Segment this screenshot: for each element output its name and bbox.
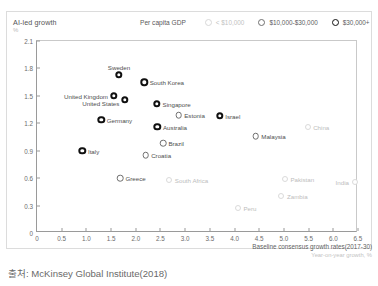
data-point-marker[interactable] bbox=[305, 124, 311, 130]
legend-items: < $10,000$10,000-$30,000$30,000+ bbox=[205, 19, 370, 26]
x-axis-tick-label: 2.5 bbox=[156, 235, 165, 242]
x-axis-tick-mark bbox=[358, 228, 359, 231]
x-axis-tick-label: 0.5 bbox=[57, 235, 66, 242]
legend-item[interactable]: $10,000-$30,000 bbox=[258, 19, 317, 26]
x-axis-tick-label: 5.0 bbox=[280, 235, 289, 242]
legend: Per capita GDP < $10,000$10,000-$30,000$… bbox=[140, 19, 370, 26]
data-point-label: China bbox=[313, 123, 329, 130]
x-axis-tick-mark bbox=[308, 228, 309, 231]
legend-item-label: $10,000-$30,000 bbox=[269, 19, 317, 26]
data-point-marker[interactable] bbox=[216, 112, 223, 119]
x-axis-tick-label: 6.0 bbox=[329, 235, 338, 242]
data-point-marker[interactable] bbox=[110, 92, 117, 99]
data-point-marker[interactable] bbox=[142, 152, 149, 159]
data-point-marker[interactable] bbox=[175, 112, 182, 119]
data-point-label: Brazil bbox=[168, 140, 183, 147]
data-point-label: Croatia bbox=[151, 152, 171, 159]
data-point-marker[interactable] bbox=[121, 96, 128, 103]
x-axis-tick-mark bbox=[283, 228, 284, 231]
data-point-label: Peru bbox=[243, 205, 256, 212]
y-axis-tick-label: 1.8 bbox=[24, 65, 33, 72]
data-point-marker[interactable] bbox=[166, 177, 172, 183]
data-point-label: Germany bbox=[107, 116, 132, 123]
data-point-marker[interactable] bbox=[154, 123, 161, 130]
data-point-marker[interactable] bbox=[235, 205, 241, 211]
x-axis-tick-mark bbox=[86, 228, 87, 231]
x-axis-tick-mark bbox=[135, 228, 136, 231]
data-point-marker[interactable] bbox=[153, 100, 160, 107]
x-axis-tick-label: 3.0 bbox=[181, 235, 190, 242]
data-point-marker[interactable] bbox=[160, 140, 167, 147]
legend-item[interactable]: < $10,000 bbox=[205, 19, 245, 26]
y-axis-tick-mark bbox=[37, 41, 40, 42]
y-axis-tick-mark bbox=[37, 95, 40, 96]
y-axis-tick-label: 0.9 bbox=[24, 147, 33, 154]
x-axis-tick-label: 3.5 bbox=[205, 235, 214, 242]
y-axis-tick-mark bbox=[37, 123, 40, 124]
data-point-label: Australia bbox=[163, 123, 187, 130]
x-axis-tick-mark bbox=[209, 228, 210, 231]
x-axis-tick-mark bbox=[160, 228, 161, 231]
data-point-marker[interactable] bbox=[352, 179, 358, 185]
x-axis-tick-label: 2.0 bbox=[131, 235, 140, 242]
data-point-marker[interactable] bbox=[252, 133, 259, 140]
y-axis-tick-label: 0.3 bbox=[24, 202, 33, 209]
data-point-label: Israel bbox=[225, 112, 240, 119]
x-axis-tick-label: 5.5 bbox=[304, 235, 313, 242]
legend-title: Per capita GDP bbox=[140, 19, 186, 26]
y-axis-tick-label: 1.2 bbox=[24, 120, 33, 127]
x-axis-tick-mark bbox=[111, 228, 112, 231]
x-axis-tick-mark bbox=[259, 228, 260, 231]
data-point-label: Zambia bbox=[287, 193, 308, 200]
x-axis-caption-sub: Year-on-year growth, % bbox=[311, 252, 372, 258]
data-point-marker[interactable] bbox=[278, 193, 284, 199]
data-point-label: Italy bbox=[88, 147, 99, 154]
data-point-label: India bbox=[336, 178, 349, 185]
y-axis-tick-label: 0.6 bbox=[24, 175, 33, 182]
y-axis-tick-label: 1.5 bbox=[24, 92, 33, 99]
source-caption: 출처: McKinsey Global Institute(2018) bbox=[8, 266, 167, 280]
data-point-label: United States bbox=[82, 100, 119, 107]
y-axis-tick-mark bbox=[37, 178, 40, 179]
legend-item-label: $30,000+ bbox=[343, 19, 370, 26]
data-point-marker[interactable] bbox=[115, 71, 122, 78]
chart-title-unit: % bbox=[13, 27, 18, 33]
data-point-marker[interactable] bbox=[117, 175, 124, 182]
data-point-label: South Africa bbox=[175, 176, 208, 183]
chart-screenshot: AI-led growth % Per capita GDP < $10,000… bbox=[0, 0, 378, 286]
x-axis-tick-mark bbox=[234, 228, 235, 231]
data-point-marker[interactable] bbox=[282, 176, 288, 182]
data-point-label: Pakistan bbox=[290, 176, 314, 183]
y-axis-tick-label: 0 bbox=[29, 230, 33, 237]
x-axis-tick-label: 0 bbox=[35, 235, 39, 242]
data-point-label: Singapore bbox=[163, 101, 191, 108]
x-axis-tick-label: 4.0 bbox=[230, 235, 239, 242]
x-axis-tick-mark bbox=[185, 228, 186, 231]
data-point-label: South Korea bbox=[150, 79, 184, 86]
y-axis-tick-mark bbox=[37, 150, 40, 151]
data-point-label: Sweden bbox=[108, 63, 130, 70]
data-point-marker[interactable] bbox=[140, 78, 147, 85]
x-axis-tick-label: 1.0 bbox=[82, 235, 91, 242]
x-axis-tick-label: 4.5 bbox=[255, 235, 264, 242]
legend-item[interactable]: $30,000+ bbox=[332, 19, 370, 26]
legend-marker-icon bbox=[258, 19, 265, 26]
data-point-marker[interactable] bbox=[97, 116, 104, 123]
x-axis-tick-label: 1.5 bbox=[107, 235, 116, 242]
data-point-label: Greece bbox=[125, 175, 145, 182]
data-point-label: Estonia bbox=[184, 112, 205, 119]
x-axis-caption: Baseline consensus growth rates(2017-30) bbox=[252, 243, 372, 250]
y-axis-tick-label: 2.1 bbox=[24, 38, 33, 45]
y-axis-tick-mark bbox=[37, 68, 40, 69]
data-point-marker[interactable] bbox=[79, 147, 86, 154]
x-axis-tick-mark bbox=[61, 228, 62, 231]
legend-item-label: < $10,000 bbox=[216, 19, 245, 26]
legend-marker-icon bbox=[332, 19, 339, 26]
chart-title: AI-led growth bbox=[13, 18, 57, 27]
data-point-label: United Kingdom bbox=[64, 92, 108, 99]
x-axis-tick-mark bbox=[333, 228, 334, 231]
plot-area: 00.30.60.91.21.51.82.1 00.51.01.52.02.53… bbox=[36, 40, 357, 232]
x-axis-tick-label: 6.5 bbox=[354, 235, 363, 242]
data-point-label: Malaysia bbox=[261, 133, 285, 140]
legend-marker-icon bbox=[205, 19, 212, 26]
